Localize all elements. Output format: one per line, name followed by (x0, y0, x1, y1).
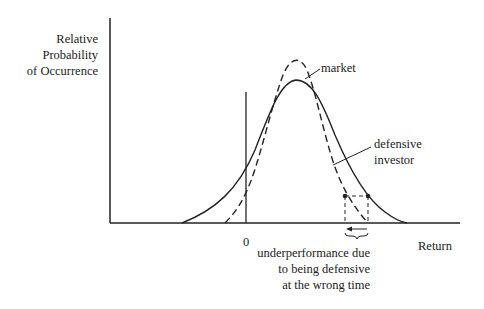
underperformance-label: underperformance due to being defensive … (257, 245, 370, 293)
point-market (343, 194, 348, 199)
zero-tick-label: 0 (243, 234, 249, 250)
under-line: to being defensive (257, 261, 370, 277)
x-axis-label: Return (418, 238, 452, 254)
under-line: at the wrong time (257, 277, 370, 293)
ylabel-line: of Occurrence (27, 63, 98, 79)
ylabel-line: Relative (27, 31, 98, 47)
arrow-head-icon (346, 227, 352, 232)
y-axis-label: Relative Probability of Occurrence (27, 31, 98, 79)
defensive-line: defensive (374, 136, 422, 152)
brace-icon (345, 233, 368, 239)
under-line: underperformance due (257, 245, 370, 261)
point-defensive (366, 194, 371, 199)
defensive-investor-label: defensive investor (374, 136, 422, 168)
defensive-leader (333, 147, 371, 165)
ylabel-line: Probability (27, 47, 98, 63)
market-leader (305, 69, 320, 79)
defensive-line: investor (374, 152, 422, 168)
market-label: market (321, 60, 356, 76)
